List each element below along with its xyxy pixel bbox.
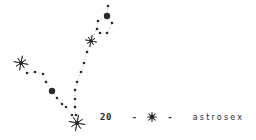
small-dot — [45, 81, 48, 84]
constellation-line — [91, 16, 112, 41]
small-dot — [97, 20, 100, 23]
small-dot — [86, 51, 89, 54]
caption: 20 - - astrosex — [100, 110, 244, 124]
constellation-stars — [14, 36, 96, 131]
small-dot — [99, 32, 102, 35]
small-dot — [76, 81, 79, 84]
small-dot — [106, 32, 109, 35]
constellation-small-dots — [26, 5, 114, 117]
small-dot — [96, 28, 99, 31]
star-bottom-icon — [69, 115, 85, 131]
small-dot — [34, 71, 37, 74]
small-dot — [71, 114, 74, 117]
small-dot — [42, 73, 45, 76]
star-left-icon — [14, 56, 28, 70]
small-dot — [74, 89, 77, 92]
small-dot — [65, 106, 68, 109]
star-icon — [147, 112, 157, 122]
brand-name: astrosex — [193, 113, 245, 122]
caption-dash-left: - — [132, 112, 137, 122]
dot-top — [104, 13, 110, 19]
small-dot — [61, 103, 64, 106]
constellation-line — [21, 63, 77, 123]
constellation-lines — [21, 6, 112, 123]
small-dot — [56, 97, 59, 100]
small-dot — [75, 114, 78, 117]
small-dot — [26, 72, 29, 75]
small-dot — [80, 71, 83, 74]
small-dot — [107, 5, 110, 8]
star-upper-icon — [86, 36, 97, 47]
small-dot — [111, 22, 114, 25]
small-dot — [83, 62, 86, 65]
caption-number: 20 — [100, 112, 112, 122]
small-dot — [74, 98, 77, 101]
small-dot — [74, 106, 77, 109]
constellation-big-dots — [49, 13, 110, 94]
dot-left — [49, 88, 55, 94]
caption-dash-right: - — [167, 112, 172, 122]
